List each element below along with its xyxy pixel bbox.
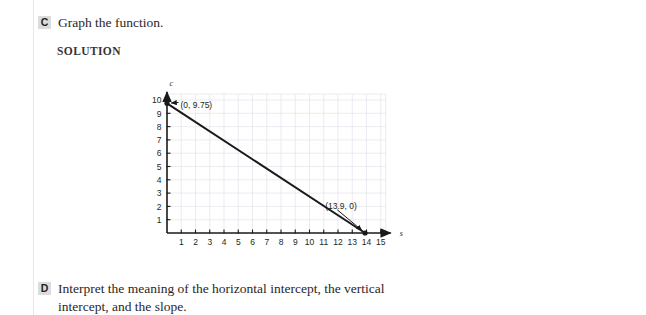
y-tick-label: 7 xyxy=(157,135,162,145)
data-point-vertical-intercept xyxy=(164,101,169,106)
x-axis-label: s xyxy=(400,229,403,238)
x-tick-label: 8 xyxy=(279,237,284,247)
y-tick-label: 3 xyxy=(157,188,162,198)
x-tick-label: 7 xyxy=(264,237,269,247)
x-tick-label: 15 xyxy=(376,237,386,247)
x-tick-label: 6 xyxy=(250,237,255,247)
y-tick-label: 9 xyxy=(157,109,162,119)
part-c-text: Graph the function. xyxy=(58,14,163,32)
x-tick-label: 5 xyxy=(236,237,241,247)
y-tick-label: 5 xyxy=(157,162,162,172)
part-c: C Graph the function. xyxy=(38,14,163,32)
x-tick-label: 3 xyxy=(207,237,212,247)
coordinate-plane: 12345678910111213141512345678910sc(0, 9.… xyxy=(140,62,440,247)
y-tick-label: 6 xyxy=(157,148,162,158)
grid-lines xyxy=(167,94,386,233)
graph-figure: 12345678910111213141512345678910sc(0, 9.… xyxy=(140,62,440,247)
x-tick-label: 1 xyxy=(179,237,184,247)
y-tick-label: 8 xyxy=(157,122,162,132)
page-column-rule xyxy=(33,0,34,315)
y-tick-label: 4 xyxy=(157,175,162,185)
x-tick-label: 11 xyxy=(319,237,328,247)
part-c-badge: C xyxy=(38,16,51,29)
y-tick-label: 10 xyxy=(152,95,162,105)
x-tick-label: 10 xyxy=(305,237,315,247)
x-tick-label: 2 xyxy=(193,237,198,247)
data-point-horizontal-intercept xyxy=(362,230,367,235)
x-tick-label: 13 xyxy=(348,237,358,247)
part-d-badge: D xyxy=(38,282,51,295)
x-tick-label: 9 xyxy=(293,237,298,247)
annotation-vertical-intercept: (0, 9.75) xyxy=(181,100,213,110)
y-tick-label: 1 xyxy=(157,215,162,225)
part-d: D Interpret the meaning of the horizonta… xyxy=(38,280,438,315)
x-tick-label: 4 xyxy=(222,237,227,247)
data-line xyxy=(167,103,365,233)
part-d-text: Interpret the meaning of the horizontal … xyxy=(58,280,438,315)
x-tick-label: 12 xyxy=(333,237,343,247)
solution-heading: SOLUTION xyxy=(57,45,121,57)
annotation-horizontal-intercept: (13.9, 0) xyxy=(325,201,357,211)
y-tick-label: 2 xyxy=(157,202,162,212)
x-tick-label: 14 xyxy=(362,237,372,247)
y-axis-label: c xyxy=(170,79,174,88)
